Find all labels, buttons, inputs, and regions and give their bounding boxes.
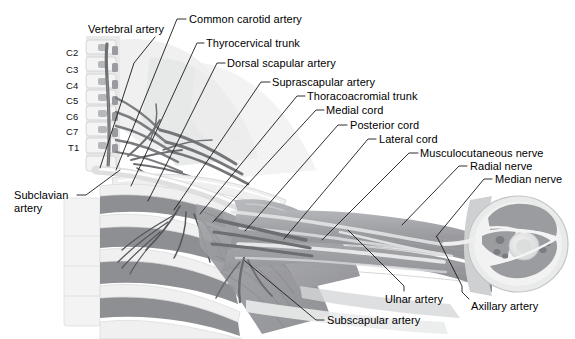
- humerus-marrow: [516, 239, 532, 253]
- label-subscapular-artery: Subscapular artery: [327, 314, 420, 327]
- sternum: [64, 198, 100, 326]
- vertebra-label-c5: C5: [66, 95, 79, 106]
- vertebra-label-c4: C4: [66, 80, 79, 91]
- label-ulnar-artery: Ulnar artery: [385, 293, 443, 306]
- vertebra-label-c6: C6: [66, 111, 79, 122]
- anatomy-figure: C2 C3 C4 C5 C6 C7 T1 Vertebral artery Co…: [0, 0, 575, 339]
- vertebra-label-c7: C7: [66, 126, 79, 137]
- label-axillary-artery: Axillary artery: [471, 300, 538, 313]
- label-common-carotid-artery: Common carotid artery: [189, 13, 302, 26]
- label-musculocutaneous-nerve: Musculocutaneous nerve: [420, 147, 543, 160]
- label-medial-cord: Medial cord: [326, 104, 383, 117]
- vertebra-label-t1: T1: [68, 142, 80, 153]
- label-vertebral-artery: Vertebral artery: [88, 23, 164, 36]
- label-median-nerve: Median nerve: [495, 173, 562, 186]
- cervical-spine: [86, 36, 120, 171]
- label-thoracoacromial-trunk: Thoracoacromial trunk: [307, 90, 417, 103]
- label-suprascapular-artery: Suprascapular artery: [272, 76, 375, 89]
- vertebra-label-c2: C2: [66, 47, 79, 58]
- label-thyrocervical-trunk: Thyrocervical trunk: [206, 37, 300, 50]
- label-posterior-cord: Posterior cord: [350, 119, 419, 132]
- label-dorsal-scapular-artery: Dorsal scapular artery: [227, 57, 336, 70]
- label-lateral-cord: Lateral cord: [379, 133, 438, 146]
- label-subclavian-artery: Subclavian artery: [14, 189, 76, 215]
- vertebra-label-c3: C3: [66, 64, 79, 75]
- label-radial-nerve: Radial nerve: [470, 160, 532, 173]
